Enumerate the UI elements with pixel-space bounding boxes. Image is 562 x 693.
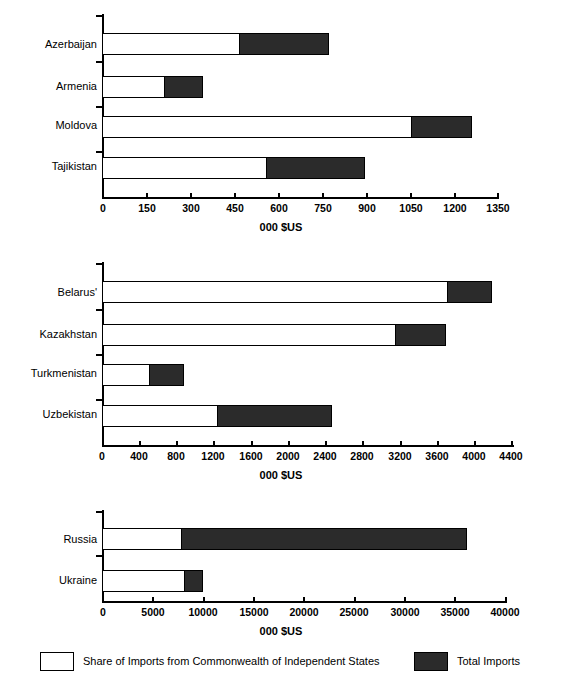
- x-tick: [139, 441, 141, 447]
- category-label-kazakhstan: Kazakhstan: [0, 328, 97, 341]
- bar-share-tajikistan: [102, 157, 267, 179]
- x-tick: [253, 597, 255, 603]
- x-axis-title-2: 000 $US: [0, 469, 562, 481]
- legend-item-share: Share of Imports from Commonwealth of In…: [40, 650, 380, 672]
- x-tick-label: 1600: [233, 450, 269, 462]
- x-tick: [410, 193, 412, 199]
- x-tick-label: 4000: [456, 450, 492, 462]
- x-tick-label: 15000: [234, 606, 274, 618]
- bar-share-armenia: [102, 76, 165, 98]
- bar-share-uzbekistan: [102, 405, 218, 427]
- legend-label-total: Total Imports: [457, 655, 520, 668]
- y-tick: [96, 399, 103, 401]
- x-tick-label: 40000: [485, 606, 525, 618]
- x-tick: [176, 441, 178, 447]
- x-tick-label: 4400: [493, 450, 529, 462]
- y-tick: [96, 61, 103, 63]
- x-tick: [497, 193, 499, 199]
- x-tick: [303, 597, 305, 603]
- y-tick: [96, 15, 103, 17]
- y-tick: [96, 511, 103, 513]
- x-axis-title-3: 000 $US: [0, 625, 562, 637]
- chart-legend: Share of Imports from Commonwealth of In…: [0, 648, 562, 680]
- x-tick-label: 900: [347, 202, 387, 214]
- x-tick: [325, 441, 327, 447]
- y-tick: [96, 106, 103, 108]
- chart-panel-3: Russia Ukraine 0 5000 10000 15000 20000 …: [0, 496, 562, 646]
- x-tick-label: 750: [303, 202, 343, 214]
- x-tick-label: 800: [158, 450, 194, 462]
- x-axis-title-1: 000 $US: [0, 221, 562, 233]
- x-axis-line-1: [102, 197, 498, 199]
- legend-swatch-total-icon: [414, 652, 448, 671]
- x-tick: [437, 441, 439, 447]
- plot-area-3: Russia Ukraine 0 5000 10000 15000 20000 …: [0, 496, 562, 646]
- x-tick: [454, 193, 456, 199]
- category-label-azerbaijan: Azerbaijan: [0, 38, 97, 51]
- x-tick: [474, 441, 476, 447]
- bar-share-turkmenistan: [102, 364, 150, 386]
- category-label-belarus: Belarus': [0, 286, 97, 299]
- x-tick-label: 20000: [284, 606, 324, 618]
- x-tick-label: 0: [84, 450, 120, 462]
- x-tick-label: 1350: [478, 202, 518, 214]
- x-tick: [102, 193, 104, 199]
- y-tick: [96, 354, 103, 356]
- x-tick-label: 10000: [183, 606, 223, 618]
- y-tick: [96, 555, 103, 557]
- legend-swatch-share-icon: [40, 652, 74, 671]
- category-label-ukraine: Ukraine: [0, 574, 97, 587]
- y-tick: [96, 263, 103, 265]
- x-tick: [234, 193, 236, 199]
- x-tick: [251, 441, 253, 447]
- category-label-tajikistan: Tajikistan: [0, 160, 97, 173]
- x-tick-label: 5000: [133, 606, 173, 618]
- x-tick: [354, 597, 356, 603]
- y-tick: [96, 309, 103, 311]
- x-tick-label: 2400: [307, 450, 343, 462]
- x-tick-label: 600: [259, 202, 299, 214]
- x-tick-label: 30000: [385, 606, 425, 618]
- x-tick: [454, 597, 456, 603]
- category-label-uzbekistan: Uzbekistan: [0, 408, 97, 421]
- x-tick: [102, 597, 104, 603]
- x-tick-label: 450: [215, 202, 255, 214]
- x-tick-label: 2800: [344, 450, 380, 462]
- x-tick: [190, 193, 192, 199]
- x-axis-line-2: [102, 445, 514, 447]
- x-tick: [146, 193, 148, 199]
- category-label-russia: Russia: [0, 533, 97, 546]
- x-tick: [288, 441, 290, 447]
- category-label-moldova: Moldova: [0, 119, 97, 132]
- x-tick: [322, 193, 324, 199]
- x-tick-label: 0: [83, 202, 123, 214]
- x-tick: [362, 441, 364, 447]
- legend-label-share: Share of Imports from Commonwealth of In…: [83, 655, 380, 668]
- x-tick-label: 1200: [195, 450, 231, 462]
- x-tick-label: 25000: [334, 606, 374, 618]
- x-tick: [152, 597, 154, 603]
- x-tick-label: 35000: [435, 606, 475, 618]
- category-label-turkmenistan: Turkmenistan: [0, 367, 97, 380]
- plot-area-2: Belarus' Kazakhstan Turkmenistan Uzbekis…: [0, 248, 562, 493]
- x-tick: [404, 597, 406, 603]
- y-tick: [96, 151, 103, 153]
- x-tick-label: 1050: [391, 202, 431, 214]
- x-tick: [511, 441, 513, 447]
- x-tick: [213, 441, 215, 447]
- bar-share-azerbaijan: [102, 33, 240, 55]
- x-tick-label: 3200: [382, 450, 418, 462]
- x-tick-label: 1200: [435, 202, 475, 214]
- legend-item-total: Total Imports: [414, 650, 520, 672]
- x-tick-label: 3600: [419, 450, 455, 462]
- x-tick-label: 400: [121, 450, 157, 462]
- plot-area-1: Azerbaijan Armenia Moldova Tajikistan: [0, 0, 562, 245]
- x-tick-label: 2000: [270, 450, 306, 462]
- bar-share-belarus: [102, 281, 448, 303]
- x-tick-label: 0: [83, 606, 123, 618]
- x-tick: [102, 441, 104, 447]
- bar-share-ukraine: [102, 570, 185, 592]
- bar-share-russia: [102, 528, 182, 550]
- x-tick-label: 150: [127, 202, 167, 214]
- x-tick: [505, 597, 507, 603]
